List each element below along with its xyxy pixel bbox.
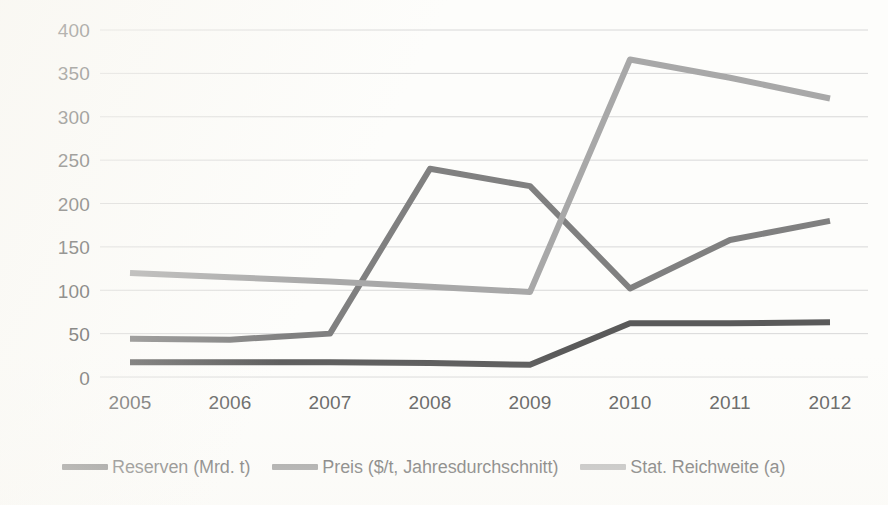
series-lines — [130, 59, 830, 364]
legend-label-reichweite: Stat. Reichweite (a) — [630, 457, 785, 478]
legend-item-reichweite: Stat. Reichweite (a) — [580, 457, 785, 478]
legend-swatch-reichweite — [580, 464, 626, 470]
legend-item-preis: Preis ($/t, Jahresdurchschnitt) — [272, 457, 558, 478]
legend-swatch-reserven — [62, 464, 108, 470]
legend: Reserven (Mrd. t) Preis ($/t, Jahresdurc… — [62, 452, 852, 482]
series-line-0 — [130, 322, 830, 365]
legend-swatch-preis — [272, 464, 318, 470]
legend-label-preis: Preis ($/t, Jahresdurchschnitt) — [322, 457, 558, 478]
legend-item-reserven: Reserven (Mrd. t) — [62, 457, 250, 478]
line-chart: 400 350 300 250 200 150 100 50 0 2005 20… — [0, 0, 888, 505]
series-line-1 — [130, 169, 830, 340]
plot-area — [0, 0, 888, 505]
legend-label-reserven: Reserven (Mrd. t) — [112, 457, 250, 478]
